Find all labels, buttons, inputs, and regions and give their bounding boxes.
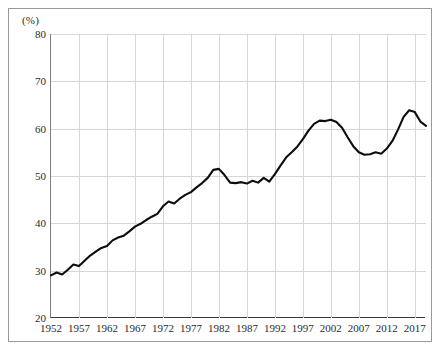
- x-axis-tick-label: 2002: [320, 323, 342, 334]
- x-axis-tick-label: 1982: [208, 323, 230, 334]
- plot-area: 8070605040302019521957196219671972197719…: [50, 34, 425, 318]
- x-axis-tick-label: 1957: [68, 323, 90, 334]
- x-axis-tick-label: 2017: [404, 323, 426, 334]
- chart-figure: (%) 807060504030201952195719621967197219…: [0, 0, 440, 355]
- axis-tick-layer: 8070605040302019521957196219671972197719…: [51, 34, 425, 317]
- y-axis-tick-label: 50: [35, 171, 46, 182]
- x-axis-tick-label: 1987: [236, 323, 258, 334]
- x-axis-tick-label: 2007: [348, 323, 370, 334]
- y-axis-tick-label: 30: [35, 265, 46, 276]
- x-axis-tick-label: 1967: [124, 323, 146, 334]
- x-axis-tick-label: 2012: [376, 323, 398, 334]
- y-axis-tick-label: 60: [35, 123, 46, 134]
- x-axis-tick-label: 1962: [96, 323, 118, 334]
- y-axis-tick-label: 40: [35, 218, 46, 229]
- y-axis-tick-label: 80: [35, 29, 46, 40]
- x-axis-tick-label: 1977: [180, 323, 202, 334]
- x-axis-tick-label: 1997: [292, 323, 314, 334]
- x-axis-tick-label: 1972: [152, 323, 174, 334]
- y-axis-unit-label: (%): [22, 14, 39, 26]
- x-axis-tick-label: 1952: [40, 323, 62, 334]
- x-axis-tick-label: 1992: [264, 323, 286, 334]
- y-axis-tick-label: 70: [35, 76, 46, 87]
